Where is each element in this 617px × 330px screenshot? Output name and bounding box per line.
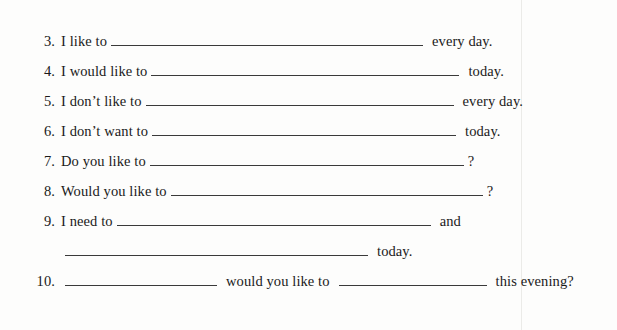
item-tail-text: today.: [468, 56, 504, 86]
item-number: 10.: [28, 266, 55, 296]
fill-in-blank[interactable]: [65, 273, 217, 286]
worksheet-item: 10. would you like to this evening?: [0, 266, 617, 296]
item-content: Would you like to ?: [61, 176, 617, 206]
item-content: I like to every day.: [61, 26, 617, 56]
worksheet-item: 9. I need to and: [0, 206, 617, 236]
item-tail-text: and: [440, 206, 461, 236]
worksheet-item: 6. I don’t want to today.: [0, 116, 617, 146]
worksheet-item-continuation: today.: [0, 236, 617, 266]
item-content: I need to and: [61, 206, 617, 236]
fill-in-blank[interactable]: [117, 213, 431, 226]
worksheet-body: 3. I like to every day. 4. I would like …: [0, 26, 617, 296]
item-number: 5.: [28, 86, 55, 116]
item-number: 4.: [28, 56, 55, 86]
item-number: 6.: [28, 116, 55, 146]
item-content: would you like to this evening?: [61, 266, 617, 296]
fill-in-blank[interactable]: [152, 123, 456, 136]
worksheet-item: 5. I don’t like to every day.: [0, 86, 617, 116]
item-content: I would like to today.: [61, 56, 617, 86]
fill-in-blank[interactable]: [151, 63, 459, 76]
fill-in-blank[interactable]: [146, 93, 454, 106]
continuation-tail-text: today.: [377, 236, 413, 266]
item-tail-text: every day.: [432, 26, 492, 56]
item-tail-text: this evening?: [496, 266, 574, 296]
item-tail-text: ?: [468, 146, 475, 176]
fill-in-blank[interactable]: [339, 273, 487, 286]
item-middle-text: would you like to: [226, 266, 330, 296]
item-tail-text: ?: [487, 176, 494, 206]
item-content: Do you like to ?: [61, 146, 617, 176]
worksheet-item: 3. I like to every day.: [0, 26, 617, 56]
fill-in-blank[interactable]: [111, 33, 423, 46]
item-lead-text: I would like to: [61, 56, 147, 86]
item-lead-text: I need to: [61, 206, 113, 236]
item-lead-text: I like to: [61, 26, 107, 56]
fill-in-blank[interactable]: [171, 183, 483, 196]
item-content: I don’t want to today.: [61, 116, 617, 146]
worksheet-item: 8. Would you like to ?: [0, 176, 617, 206]
item-tail-text: every day.: [463, 86, 523, 116]
item-number: 7.: [28, 146, 55, 176]
item-number: 8.: [28, 176, 55, 206]
item-tail-text: today.: [465, 116, 501, 146]
item-content: I don’t like to every day.: [61, 86, 617, 116]
worksheet-item: 4. I would like to today.: [0, 56, 617, 86]
item-lead-text: I don’t want to: [61, 116, 148, 146]
item-lead-text: I don’t like to: [61, 86, 142, 116]
fill-in-blank[interactable]: [65, 243, 368, 256]
worksheet-item: 7. Do you like to ?: [0, 146, 617, 176]
item-number: 3.: [28, 26, 55, 56]
item-lead-text: Would you like to: [61, 176, 167, 206]
item-lead-text: Do you like to: [61, 146, 146, 176]
fill-in-blank[interactable]: [150, 153, 464, 166]
item-number: 9.: [28, 206, 55, 236]
